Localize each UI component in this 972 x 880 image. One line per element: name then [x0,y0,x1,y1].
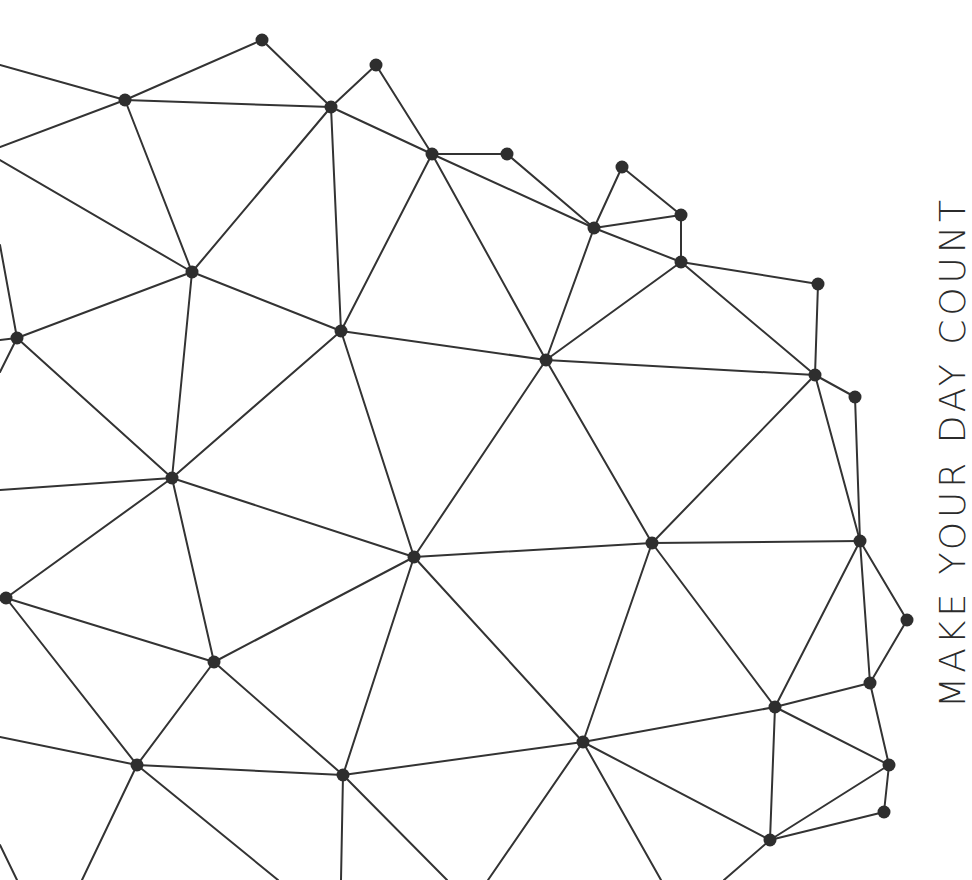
network-edge [884,765,889,812]
network-edge [870,620,907,683]
network-edge [488,742,583,880]
network-edge [681,262,815,375]
network-edge [331,65,376,107]
network-edge [414,557,583,742]
network-edge [775,707,889,765]
network-edge [172,331,341,478]
network-edge [137,662,214,765]
network-edge [262,40,331,107]
network-node-dot [809,369,822,382]
network-edge [172,478,414,557]
network-node-dot [864,677,877,690]
network-node-dot [335,325,348,338]
poster-canvas: MAKE YOUR DAY COUNT [0,0,972,880]
network-edge [125,40,262,100]
network-edge [137,765,343,775]
network-node-dot [675,256,688,269]
network-edge [17,338,172,478]
network-edge [546,360,652,543]
network-edge [870,683,889,765]
network-node-dot [854,535,867,548]
network-edge [546,228,594,360]
network-node-dot [764,834,777,847]
network-edge [0,100,125,147]
network-edge [6,598,137,765]
network-node-dot [131,759,144,772]
network-edge [341,154,432,331]
network-node-dot [901,614,914,627]
network-node-dot [256,34,269,47]
network-edge [414,543,652,557]
network-edge [214,662,343,775]
network-edge [17,272,192,338]
network-edge [341,775,343,880]
network-node-dot [878,806,891,819]
network-edge [0,65,125,100]
network-edge [775,541,860,707]
network-edge [192,107,331,272]
network-edge [855,397,860,541]
network-edge [125,100,192,272]
network-edge [652,543,775,707]
network-node-dot [501,148,514,161]
network-edge [414,360,546,557]
network-edge [0,845,17,880]
network-edge [0,160,192,272]
network-node-dot [408,551,421,564]
network-edge [770,765,889,840]
network-edge [775,683,870,707]
network-edges [0,40,907,880]
network-node-dot [186,266,199,279]
network-edge [681,262,818,284]
network-edge [192,272,341,331]
network-edge [583,543,652,742]
node-network-graphic [0,0,972,880]
network-node-dot [370,59,383,72]
network-node-dot [540,354,553,367]
network-edge [0,478,172,490]
network-edge [341,331,546,360]
network-edge [652,541,860,543]
network-edge [343,775,447,880]
network-node-dot [11,332,24,345]
network-edge [343,742,583,775]
network-edge [594,167,622,228]
network-edge [770,707,775,840]
network-edge [341,331,414,557]
network-node-dot [675,209,688,222]
tagline-text: MAKE YOUR DAY COUNT [935,196,971,708]
network-node-dot [769,701,782,714]
network-nodes [0,34,914,847]
network-edge [815,284,818,375]
network-edge [507,154,594,228]
network-node-dot [588,222,601,235]
network-edge [594,228,681,262]
network-edge [172,272,192,478]
network-node-dot [577,736,590,749]
network-node-dot [426,148,439,161]
network-edge [724,840,770,880]
network-node-dot [119,94,132,107]
network-node-dot [646,537,659,550]
network-node-dot [849,391,862,404]
network-edge [770,812,884,840]
network-node-dot [616,161,629,174]
network-edge [331,107,341,331]
network-node-dot [208,656,221,669]
network-edge [137,765,278,880]
network-edge [6,478,172,598]
network-edge [172,478,214,662]
network-node-dot [812,278,825,291]
network-edge [622,167,681,215]
network-node-dot [883,759,896,772]
network-edge [594,215,681,228]
network-edge [583,707,775,742]
network-edge [82,765,137,880]
network-edge [0,245,17,338]
network-node-dot [166,472,179,485]
network-edge [432,154,594,228]
network-edge [652,375,815,543]
network-edge [860,541,907,620]
network-edge [432,154,546,360]
network-node-dot [325,101,338,114]
